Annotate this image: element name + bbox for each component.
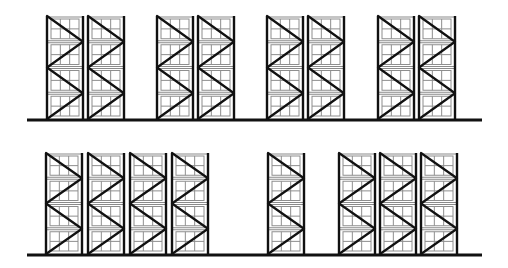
rack-group-3 bbox=[339, 153, 457, 254]
cross-bracing bbox=[421, 153, 457, 254]
rack-unit bbox=[308, 16, 344, 119]
cross-bracing bbox=[157, 16, 193, 119]
rack-unit bbox=[46, 153, 82, 254]
rack-unit bbox=[339, 153, 375, 254]
rack-group-2 bbox=[268, 153, 304, 254]
bottom-row bbox=[27, 153, 482, 255]
cross-bracing bbox=[419, 16, 455, 119]
cross-bracing bbox=[46, 153, 82, 254]
rack-unit bbox=[130, 153, 166, 254]
racking-diagram bbox=[0, 0, 508, 268]
rack-unit bbox=[172, 153, 208, 254]
cross-bracing bbox=[339, 153, 375, 254]
cross-bracing bbox=[88, 16, 124, 119]
rack-unit bbox=[380, 153, 416, 254]
rack-unit bbox=[268, 153, 304, 254]
cross-bracing bbox=[378, 16, 414, 119]
rack-group-1 bbox=[46, 153, 208, 254]
cross-bracing bbox=[380, 153, 416, 254]
rack-group-3 bbox=[267, 16, 344, 119]
cross-bracing bbox=[308, 16, 344, 119]
rack-unit bbox=[47, 16, 83, 119]
rack-group-4 bbox=[378, 16, 455, 119]
rack-unit bbox=[88, 153, 124, 254]
rack-unit bbox=[198, 16, 234, 119]
cross-bracing bbox=[198, 16, 234, 119]
cross-bracing bbox=[130, 153, 166, 254]
rack-rows bbox=[27, 16, 482, 255]
rack-unit bbox=[378, 16, 414, 119]
rack-unit bbox=[267, 16, 303, 119]
cross-bracing bbox=[268, 153, 304, 254]
rack-unit bbox=[419, 16, 455, 119]
cross-bracing bbox=[47, 16, 83, 119]
rack-unit bbox=[88, 16, 124, 119]
cross-bracing bbox=[172, 153, 208, 254]
cross-bracing bbox=[267, 16, 303, 119]
rack-group-1 bbox=[47, 16, 124, 119]
rack-unit bbox=[157, 16, 193, 119]
rack-unit bbox=[421, 153, 457, 254]
cross-bracing bbox=[88, 153, 124, 254]
rack-group-2 bbox=[157, 16, 234, 119]
top-row bbox=[27, 16, 482, 120]
